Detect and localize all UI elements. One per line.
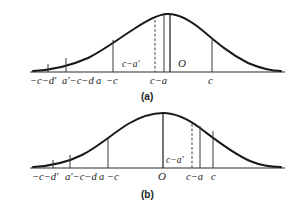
panel-a-axis-label-minus-c-minus-dprime: −c−d′ bbox=[30, 75, 57, 86]
panel-a-caption: (a) bbox=[141, 91, 153, 102]
panel-a-axis-label-c-minus-a: c−a bbox=[150, 75, 167, 86]
panel-b-axis-label-origin: O bbox=[158, 170, 166, 182]
panel-b-axis-label-aprime-minus-c-minus-d: a′−c−d bbox=[65, 171, 97, 182]
panel-b-axis-label-minus-c-minus-dprime: −c−d′ bbox=[32, 171, 59, 182]
panel-b-axis-label-c-minus-a: c−a bbox=[186, 171, 203, 182]
panel-a-axis-label-aprime-minus-c-minus-d: a′−c−d bbox=[62, 75, 94, 86]
panel-b-axis-label-a: a bbox=[99, 171, 104, 182]
panel-b: c−a′ −c−d′ a′−c−d a −c O c−a c (b) bbox=[30, 113, 285, 200]
panel-a-curve bbox=[33, 14, 281, 71]
normal-distribution-figure: c−a′ O −c−d′ a′−c−d a −c c−a c (a) c−a′ … bbox=[0, 0, 292, 210]
panel-b-label-c-minus-a-prime-inline: c−a′ bbox=[166, 155, 184, 165]
panel-b-axis-label-minus-c: −c bbox=[107, 171, 119, 182]
figure-container: c−a′ O −c−d′ a′−c−d a −c c−a c (a) c−a′ … bbox=[0, 0, 292, 210]
panel-a-axis-label-a: a bbox=[96, 75, 101, 86]
panel-a: c−a′ O −c−d′ a′−c−d a −c c−a c (a) bbox=[30, 14, 285, 102]
panel-a-label-origin: O bbox=[178, 57, 186, 69]
panel-a-axis-label-c: c bbox=[208, 75, 213, 86]
panel-a-axis-label-minus-c: −c bbox=[106, 75, 118, 86]
panel-b-caption: (b) bbox=[141, 189, 154, 200]
panel-b-axis-label-c: c bbox=[211, 171, 216, 182]
panel-a-label-c-minus-a-prime-inline: c−a′ bbox=[122, 59, 140, 69]
